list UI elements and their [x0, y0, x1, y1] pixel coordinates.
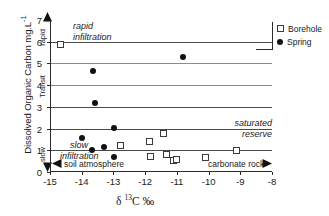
x-axis-title-unit: ‰ [142, 195, 154, 207]
annotation-rapid-infiltration-line2: infiltration [73, 32, 112, 43]
x-axis-title-element: C [132, 195, 140, 207]
data-point-spring [90, 68, 96, 74]
legend-item-borehole: Borehole [277, 22, 329, 35]
x-tick-mark--8 [272, 172, 273, 175]
x-tick-label--12: -12 [132, 176, 158, 187]
gridline-y-3 [51, 107, 272, 108]
legend-item-spring: Spring [277, 35, 329, 48]
left-arrow-icon [52, 159, 62, 168]
x-tick-mark--12 [145, 172, 146, 175]
data-point-borehole [233, 147, 240, 154]
annotation-saturated-reserve-line2: reserve [192, 129, 272, 140]
x-tick-label--13: -13 [100, 176, 126, 187]
annotation-slow-infiltration: slow infiltration [60, 140, 99, 161]
y-tick-label-2: 2 [26, 124, 42, 135]
data-point-borehole [160, 130, 167, 137]
x-tick-label--14: -14 [69, 176, 95, 187]
annotation-rapid-infiltration: rapid infiltration [73, 21, 112, 42]
x-tick-label--8: -8 [259, 176, 285, 187]
annotation-rapid-infiltration-line1: rapid [73, 21, 112, 32]
data-point-spring [180, 54, 186, 60]
x-tick-label--11: -11 [164, 176, 190, 187]
annotation-slow-infiltration-line1: slow [60, 140, 99, 151]
y-tick-label-3: 3 [26, 102, 42, 113]
data-point-spring [92, 100, 98, 106]
y-tick-label-5: 5 [26, 58, 42, 69]
legend-label-borehole: Borehole [288, 24, 322, 34]
data-point-borehole [57, 41, 64, 48]
data-point-borehole [117, 142, 124, 149]
filled-circle-icon [277, 39, 283, 45]
x-tick-label--15: -15 [37, 176, 63, 187]
right-arrow-icon [262, 159, 272, 168]
annotation-saturated-reserve-line1: saturated [192, 118, 272, 129]
dissolved-organic-carbon-scatter-chart: Dissolved Organic Carbon mg.L-1 7 6 5 4 … [0, 0, 329, 216]
x-tick-mark--14 [82, 172, 83, 175]
annotation-saturated-reserve: saturated reserve [192, 118, 272, 139]
x-tick-mark--13 [113, 172, 114, 175]
side-label-transit: Transit [38, 71, 47, 103]
gridline-y-4 [51, 85, 272, 86]
open-square-icon [277, 25, 284, 32]
data-point-borehole [173, 156, 180, 163]
x-tick-label--10: -10 [196, 176, 222, 187]
data-point-borehole [146, 138, 153, 145]
annotation-soil-atmosphere: soil atmosphere [64, 159, 124, 169]
x-tick-label--9: -9 [227, 176, 253, 187]
side-label-rapid: rapid [38, 23, 47, 53]
x-tick-mark--15 [50, 172, 51, 175]
annotation-carbonate-rock: carbonate rock [208, 159, 264, 169]
data-point-borehole [147, 153, 154, 160]
legend: Borehole Spring [272, 22, 329, 50]
x-tick-mark--10 [209, 172, 210, 175]
x-tick-mark--9 [240, 172, 241, 175]
x-axis-title-superscript: 13 [124, 193, 132, 202]
gridline-y-5 [51, 63, 272, 64]
data-point-spring [111, 125, 117, 131]
legend-connector-line [256, 49, 273, 50]
x-axis-title-symbol: δ [116, 195, 121, 207]
legend-label-spring: Spring [287, 37, 312, 47]
x-tick-mark--11 [177, 172, 178, 175]
x-axis-title: δ 13C ‰ [0, 193, 270, 207]
